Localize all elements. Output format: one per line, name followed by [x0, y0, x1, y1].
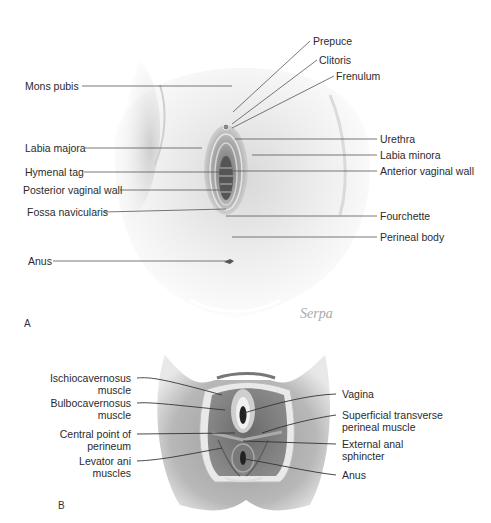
label-line: Central point of: [60, 428, 131, 440]
label-line: Levator ani: [79, 455, 131, 467]
panel-letter-a: A: [24, 318, 31, 329]
label-fossa-navicularis: Fossa navicularis: [27, 206, 108, 218]
label-anterior-vaginal-wall: Anterior vaginal wall: [380, 165, 474, 177]
label-mons-pubis: Mons pubis: [25, 80, 79, 92]
label-line: Superficial transverse: [342, 409, 443, 421]
anatomy-diagram: Serpa: [0, 0, 491, 523]
label-external-anal-sphincter: External anal sphincter: [342, 438, 403, 462]
label-superficial-transverse-perineal-muscle: Superficial transverse perineal muscle: [342, 409, 443, 433]
label-line: muscle: [50, 409, 131, 421]
label-anus-a: Anus: [28, 255, 52, 267]
label-clitoris: Clitoris: [319, 54, 351, 66]
label-fourchette: Fourchette: [380, 210, 430, 222]
label-anus-b: Anus: [342, 469, 366, 481]
label-line: muscles: [79, 467, 131, 479]
label-labia-majora: Labia majora: [25, 142, 86, 154]
label-prepuce: Prepuce: [313, 35, 352, 47]
label-posterior-vaginal-wall: Posterior vaginal wall: [23, 184, 122, 196]
label-perineal-body: Perineal body: [380, 231, 444, 243]
label-line: External anal: [342, 438, 403, 450]
label-line: Vagina: [342, 388, 374, 400]
label-line: sphincter: [342, 450, 403, 462]
label-hymenal-tag: Hymenal tag: [25, 166, 84, 178]
artist-signature: Serpa: [300, 306, 333, 321]
label-line: Ischiocavernosus: [50, 372, 131, 384]
label-line: Bulbocavernosus: [50, 397, 131, 409]
label-line: perineum: [60, 440, 131, 452]
label-vagina: Vagina: [342, 388, 374, 400]
panel-a-art: Serpa: [110, 60, 370, 321]
panel-letter-b: B: [58, 500, 65, 511]
label-line: perineal muscle: [342, 421, 443, 433]
label-labia-minora: Labia minora: [380, 149, 441, 161]
label-bulbocavernosus: Bulbocavernosus muscle: [50, 397, 131, 421]
label-levator-ani: Levator ani muscles: [79, 455, 131, 479]
label-line: muscle: [50, 384, 131, 396]
label-urethra: Urethra: [380, 133, 415, 145]
label-ischiocavernosus: Ischiocavernosus muscle: [50, 372, 131, 396]
label-frenulum: Frenulum: [336, 70, 380, 82]
panel-b-art: [157, 355, 330, 510]
label-line: Anus: [342, 469, 366, 481]
label-central-point-of-perineum: Central point of perineum: [60, 428, 131, 452]
